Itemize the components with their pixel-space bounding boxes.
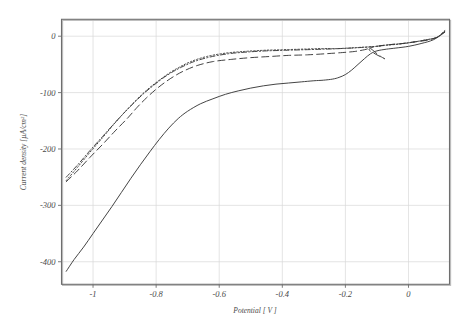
- x-tick-label: -1: [89, 289, 96, 299]
- y-tick-label: -400: [40, 257, 56, 267]
- x-tick-label: -0.6: [212, 289, 226, 299]
- y-tick-label: -300: [40, 200, 56, 210]
- x-tick-label: -0.4: [276, 289, 290, 299]
- chart-background: [0, 0, 463, 326]
- x-axis-title: Potential [ V ]: [232, 306, 276, 315]
- y-tick-label: -100: [40, 88, 56, 98]
- x-tick-label: -0.2: [339, 289, 353, 299]
- y-axis-title: Current density [µA/cm²]: [19, 114, 28, 190]
- chart-figure: -1-0.8-0.6-0.4-0.20 0-100-200-300-400 Po…: [0, 0, 463, 326]
- x-tick-label: -0.8: [149, 289, 163, 299]
- polarization-curve-chart: -1-0.8-0.6-0.4-0.20 0-100-200-300-400 Po…: [0, 0, 463, 326]
- y-tick-label: -200: [40, 144, 56, 154]
- x-tick-label: 0: [406, 289, 411, 299]
